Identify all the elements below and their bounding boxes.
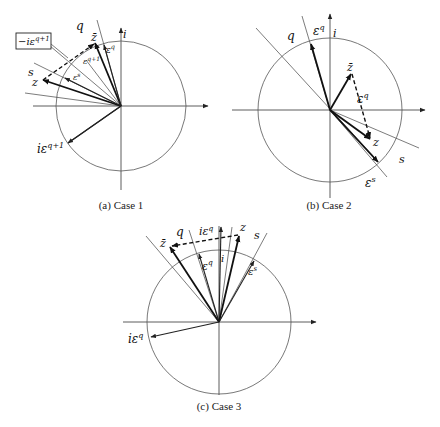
vector-z (43, 80, 121, 106)
label-z: z (239, 221, 246, 234)
caption-case1: (a) Case 1 (99, 199, 144, 212)
vector-i-eps-q (151, 322, 219, 337)
label-eps-q-top: εq (313, 23, 325, 38)
label-q: q (76, 19, 84, 33)
label-eps-q: εq (202, 258, 213, 273)
label-i: i (221, 253, 224, 264)
vector-zbar (330, 74, 351, 110)
label-zbar: z̄ (90, 31, 97, 44)
label-zbar: z̄ (159, 237, 166, 250)
ray-eps-q1 (86, 60, 121, 106)
panel-case2: q εq i z̄ εq z s εs (b) Case 2 (232, 14, 425, 212)
label-i-eps-q1: iεq+1 (37, 141, 64, 156)
label-i: i (333, 27, 337, 40)
label-zbar: z̄ (346, 61, 353, 74)
vector-eps-q (311, 44, 330, 110)
figure-canvas: −iεq+1 q s i z z̄ εq εq+1 εs iεq+1 (a) C… (0, 0, 440, 427)
panel-case1: −iεq+1 q s i z z̄ εq εq+1 εs iεq+1 (a) C… (16, 19, 208, 212)
caption-case2: (b) Case 2 (306, 199, 351, 212)
label-eps-s: εs (73, 71, 80, 82)
label-i-eps-q-top: iεq (199, 224, 213, 238)
label-i-eps-q: iεq (128, 331, 143, 346)
label-s: s (399, 153, 405, 166)
caption-case3: (c) Case 3 (197, 400, 242, 413)
label-s: s (254, 229, 260, 242)
label-leader (51, 44, 68, 58)
ray-q (146, 236, 219, 322)
vector-eps-s (330, 110, 378, 162)
label-eps-q-mid: εq (357, 91, 369, 106)
label-z: z (31, 76, 38, 89)
label-i: i (123, 28, 127, 41)
label-z: z (372, 136, 379, 149)
label-eps-s: εs (365, 175, 376, 190)
label-eps-q1: εq+1 (83, 55, 100, 66)
label-q: q (176, 225, 184, 239)
label-eps-s: εs (248, 265, 257, 277)
panel-case3: q z̄ iεq z s i εq εs iεq (c) Case 3 (123, 221, 316, 413)
label-q: q (287, 29, 295, 43)
label-eps-q: εq (106, 43, 115, 55)
ray-aux-2 (25, 93, 121, 106)
vector-i-eps-q1-tail (68, 106, 121, 143)
